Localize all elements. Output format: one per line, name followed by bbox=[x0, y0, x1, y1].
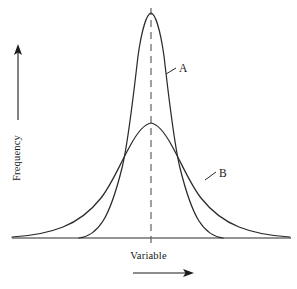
figure-container: A B Frequency Variable bbox=[0, 0, 297, 289]
curve-b-label: B bbox=[219, 167, 227, 179]
y-axis-label: Frequency bbox=[6, 120, 26, 196]
curve-a-label: A bbox=[179, 62, 188, 74]
curve-b-leader-line bbox=[205, 172, 216, 180]
x-axis-label: Variable bbox=[0, 250, 297, 261]
distribution-plot: A B bbox=[0, 0, 297, 289]
curve-a-leader-line bbox=[166, 68, 176, 74]
y-axis-label-text: Frequency bbox=[11, 135, 22, 181]
